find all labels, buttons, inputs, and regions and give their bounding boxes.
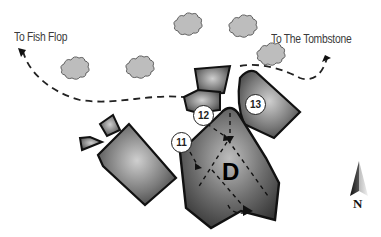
tree-icon <box>174 13 202 35</box>
marker-13[interactable]: 13 <box>245 94 266 115</box>
small-rock <box>80 137 102 150</box>
small-rock <box>100 115 120 136</box>
building-west <box>98 124 176 205</box>
compass-icon <box>350 161 368 196</box>
tree-icon <box>61 57 89 79</box>
building-d-label: D <box>222 158 239 186</box>
tree-icon <box>257 43 285 65</box>
tree-icon <box>126 56 154 78</box>
destination-label-tombstone: To The Tombstone <box>271 32 351 46</box>
marker-11[interactable]: 11 <box>171 132 192 153</box>
marker-12[interactable]: 12 <box>193 105 214 126</box>
compass-north-label: N <box>353 196 362 212</box>
destination-label-fish-flop: To Fish Flop <box>14 30 67 44</box>
tree-icon <box>229 15 257 37</box>
